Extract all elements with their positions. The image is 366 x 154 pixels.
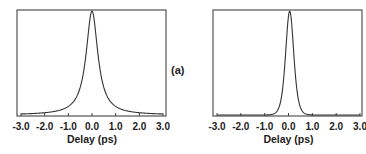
x-tick-label: -3.0	[12, 121, 30, 132]
data-series-line	[21, 11, 163, 114]
x-tick-label: 2.0	[329, 121, 343, 132]
x-tick-label: 3.0	[353, 121, 366, 132]
x-axis-title: Delay (ps)	[67, 133, 117, 145]
panel-label: (a)	[171, 64, 185, 76]
x-tick-label: 0.0	[282, 121, 296, 132]
plot-left: -3.0-2.0-1.00.01.02.03.0Delay (ps)	[12, 10, 170, 145]
figure: -3.0-2.0-1.00.01.02.03.0Delay (ps) -3.0-…	[0, 0, 366, 154]
x-tick-label: -3.0	[208, 121, 226, 132]
data-series-line	[217, 11, 360, 115]
x-axis-title: Delay (ps)	[263, 133, 313, 145]
x-tick-label: 1.0	[109, 121, 123, 132]
x-tick-label: 2.0	[132, 121, 146, 132]
x-tick-label: -1.0	[256, 121, 274, 132]
plot-frame	[17, 10, 166, 116]
x-tick-label: -2.0	[36, 121, 54, 132]
x-tick-label: -1.0	[60, 121, 78, 132]
x-tick-label: 0.0	[85, 121, 99, 132]
plot-right: -3.0-2.0-1.00.01.02.03.0Delay (ps)	[208, 10, 366, 145]
x-tick-label: -2.0	[232, 121, 250, 132]
x-tick-label: 1.0	[305, 121, 319, 132]
x-tick-label: 3.0	[156, 121, 170, 132]
